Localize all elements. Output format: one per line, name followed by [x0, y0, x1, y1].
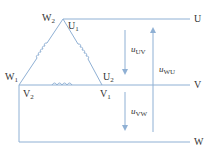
- terminal-label-w: W: [194, 137, 203, 147]
- node-label-w2: W2: [42, 13, 55, 25]
- node-label-u1: U1: [68, 21, 79, 33]
- voltage-label-uvw: uVW: [131, 107, 147, 118]
- voltage-label-uwu: uWU: [159, 65, 175, 76]
- voltage-label-uuv: uUV: [131, 45, 146, 56]
- node-label-w1: W1: [5, 72, 18, 84]
- winding-w-left: [19, 19, 63, 85]
- node-label-u2: U2: [103, 72, 114, 84]
- terminal-label-v: V: [194, 80, 201, 90]
- terminal-label-u: U: [194, 14, 201, 24]
- node-label-v1: V1: [100, 89, 111, 101]
- node-label-v2: V2: [23, 89, 34, 101]
